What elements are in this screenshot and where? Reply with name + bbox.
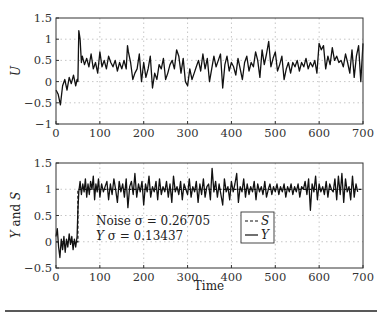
x-tick-label: 500 — [264, 126, 286, 140]
x-tick-label: 300 — [177, 126, 199, 140]
x-tick-label: 700 — [352, 126, 374, 140]
y-sigma-annotation: Y σ = 0.13437 — [96, 229, 183, 243]
y-tick-label: 0 — [45, 75, 52, 89]
x-tick-label: 100 — [89, 126, 111, 140]
x-tick-label: 400 — [220, 126, 242, 140]
x-tick-label: 200 — [133, 270, 155, 284]
bottom-xlabel: Time — [194, 279, 224, 293]
x-tick-label: 600 — [308, 126, 330, 140]
y-tick-label: 0 — [45, 235, 52, 249]
bottom-plot-y-and-s: 0100200300400500600700−0.500.511.5 Y and… — [9, 156, 374, 293]
top-plot-ticks: 0100200300400500600700−1−0.500.511.5 — [24, 11, 374, 140]
x-tick-label: 0 — [52, 126, 59, 140]
x-tick-label: 600 — [308, 270, 330, 284]
top-ylabel: U — [9, 65, 23, 76]
x-tick-label: 200 — [133, 126, 155, 140]
y-tick-label: −0.5 — [24, 261, 52, 275]
figure: 0100200300400500600700−1−0.500.511.5 U 0… — [0, 0, 384, 314]
bottom-ylabel: Y and S — [9, 192, 23, 238]
x-tick-label: 0 — [52, 270, 59, 284]
y-tick-label: 0.5 — [34, 209, 52, 223]
legend: S Y — [241, 212, 274, 243]
x-tick-label: 700 — [352, 270, 374, 284]
legend-s-label: S — [261, 214, 269, 228]
y-tick-label: 1.5 — [34, 11, 52, 25]
noise-sigma-annotation: Noise σ = 0.26705 — [96, 214, 210, 228]
x-tick-label: 500 — [264, 270, 286, 284]
y-tick-label: −1 — [35, 117, 52, 131]
y-tick-label: 1 — [45, 182, 52, 196]
y-tick-label: 0.5 — [34, 53, 52, 67]
y-tick-label: 1 — [45, 32, 52, 46]
legend-y-label: Y — [261, 228, 270, 242]
u-signal-line — [56, 31, 363, 105]
y-tick-label: 1.5 — [34, 156, 52, 170]
x-tick-label: 100 — [89, 270, 111, 284]
y-tick-label: −0.5 — [24, 96, 52, 110]
top-plot-u: 0100200300400500600700−1−0.500.511.5 U — [9, 11, 374, 140]
y-output-line — [56, 168, 358, 257]
